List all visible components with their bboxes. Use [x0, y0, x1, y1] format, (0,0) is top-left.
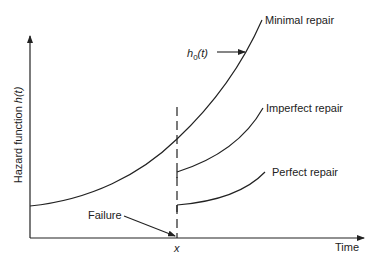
- imperfect-repair-curve: [177, 108, 263, 172]
- hazard-diagram: Hazard function h(t) Time x Minimal repa…: [0, 0, 385, 263]
- imperfect-repair-label: Imperfect repair: [266, 102, 343, 114]
- perfect-repair-label: Perfect repair: [272, 166, 338, 178]
- baseline-hazard-label: h0(t): [187, 47, 208, 62]
- minimal-repair-label: Minimal repair: [265, 14, 334, 26]
- failure-label: Failure: [88, 209, 122, 221]
- y-axis-label: Hazard function h(t): [12, 86, 24, 183]
- failure-arrow: [124, 216, 175, 236]
- perfect-repair-curve: [177, 172, 265, 205]
- failure-time-marker: x: [173, 242, 180, 254]
- minimal-repair-curve: [30, 20, 262, 206]
- x-axis-label: Time: [335, 241, 359, 253]
